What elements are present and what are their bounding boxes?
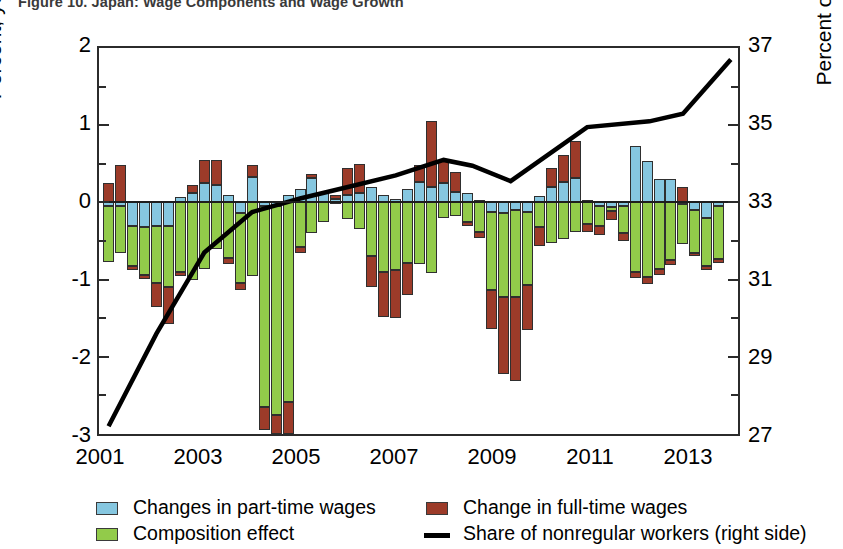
y-tick-mark [731,163,738,165]
left-tick-0: 0 [31,190,91,212]
y-tick-mark [728,201,738,203]
left-tick-neg2: -2 [31,346,91,368]
y-tick-mark [99,86,106,88]
right-tick-33: 33 [748,190,808,212]
y-tick-mark [99,163,106,165]
legend-label-part-time: Changes in part-time wages [133,498,376,518]
share-line-layer [99,48,738,434]
x-tick-2009: 2009 [452,446,532,468]
y-tick-mark [731,86,738,88]
right-tick-37: 37 [748,34,808,56]
legend-label-composition: Composition effect [133,524,294,544]
left-tick-neg3: -3 [31,424,91,446]
legend-line-share [424,533,450,538]
y-tick-mark [728,279,738,281]
chart-legend: Changes in part-time wages Change in ful… [96,496,836,546]
x-tick-2003: 2003 [158,446,238,468]
x-tick-2011: 2011 [550,446,630,468]
plot-area [97,46,740,436]
x-tick-2007: 2007 [354,446,434,468]
y-tick-mark [99,394,106,396]
figure-container: Figure 10. Japan: Wage Components and Wa… [0,0,843,549]
plot-clip [99,48,738,434]
x-tick-2013: 2013 [648,446,728,468]
left-axis-label: Percent; year over year [0,0,6,120]
y-tick-mark [99,240,106,242]
y-tick-mark [731,240,738,242]
y-tick-mark [99,124,109,126]
legend-label-full-time: Change in full-time wages [463,498,687,518]
figure-title: Figure 10. Japan: Wage Components and Wa… [18,0,818,10]
y-tick-mark [99,279,109,281]
right-axis-label: Percent of staff [812,0,836,130]
left-tick-1: 1 [31,112,91,134]
left-tick-neg1: -1 [31,268,91,290]
y-tick-mark [99,317,106,319]
right-tick-35: 35 [748,112,808,134]
y-tick-mark [728,124,738,126]
legend-swatch-full-time [426,502,448,515]
y-tick-mark [728,356,738,358]
share-of-nonregular-workers-line [109,60,731,427]
zero-baseline [99,201,738,203]
y-tick-mark [99,356,109,358]
left-tick-2: 2 [31,34,91,56]
legend-swatch-composition [96,528,118,541]
right-tick-27: 27 [748,424,808,446]
right-tick-31: 31 [748,268,808,290]
x-tick-2005: 2005 [256,446,336,468]
y-tick-mark [731,317,738,319]
y-tick-mark [731,394,738,396]
legend-swatch-part-time [96,502,118,515]
legend-label-share: Share of nonregular workers (right side) [463,524,807,544]
y-tick-mark [99,201,109,203]
x-tick-2001: 2001 [60,446,140,468]
right-tick-29: 29 [748,346,808,368]
